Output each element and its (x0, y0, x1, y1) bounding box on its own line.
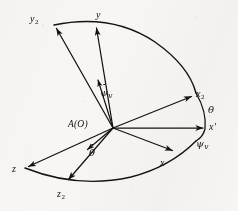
angle-label-theta: θ (208, 105, 214, 115)
vector-z (29, 128, 114, 167)
arc-upper (54, 21, 196, 93)
figure-canvas: y2 y x2 θ x′ ψv x z z2 A(O) ψv θ (0, 0, 238, 211)
vector-x (113, 128, 173, 151)
axis-label-x: x (160, 158, 165, 168)
axis-label-x2: x2 (196, 89, 205, 101)
vector-x2 (113, 97, 192, 129)
axis-label-y2: y2 (30, 14, 39, 26)
axis-label-y: y (96, 10, 101, 20)
axis-label-x-prime: x′ (209, 122, 216, 132)
axis-label-z2: z2 (57, 189, 65, 201)
diagram-svg (0, 0, 238, 211)
angle-label-psi-v: ψv (196, 139, 209, 151)
origin-label: A(O) (68, 120, 88, 130)
rate-label-psi-dot-v: ψv (100, 88, 113, 100)
arc-lower (25, 141, 196, 181)
axis-label-z: z (12, 164, 16, 174)
rate-label-theta-dot: θ (89, 148, 95, 158)
